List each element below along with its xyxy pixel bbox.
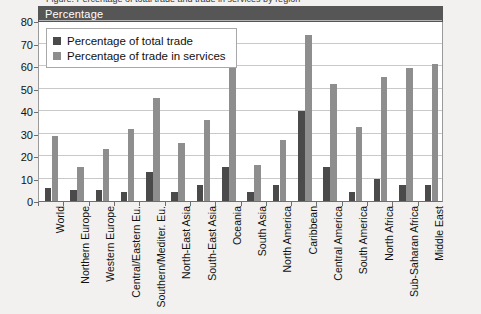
- x-axis-tick-label: Middle East: [434, 206, 444, 261]
- bar: [432, 64, 439, 201]
- bar-group: [393, 22, 418, 201]
- y-axis-tick-label: 80: [21, 17, 33, 28]
- x-axis-tick: [316, 202, 317, 206]
- x-axis-tick-label: Sub-Saharan Africa: [409, 206, 419, 297]
- bar: [121, 192, 128, 201]
- x-axis-tick-label: Northern Europe: [80, 206, 90, 284]
- legend-swatch-services-icon: [53, 52, 61, 60]
- legend-item: Percentage of total trade: [53, 33, 226, 48]
- bar-group: [267, 22, 292, 201]
- x-axis-tick: [38, 202, 39, 206]
- bar: [171, 192, 178, 201]
- x-axis-labels: WorldNorthern EuropeWestern EuropeCentra…: [38, 206, 443, 314]
- bar: [406, 68, 413, 201]
- bar: [273, 185, 280, 201]
- x-axis-tick-label: North-East Asia: [181, 206, 191, 279]
- bar: [356, 127, 363, 201]
- x-axis-tick: [342, 202, 343, 206]
- x-axis-tick-label: South Asia: [257, 206, 267, 256]
- x-axis-tick-label: Western Europe: [105, 206, 115, 282]
- bar: [146, 172, 153, 201]
- x-axis-tick-label: World: [55, 206, 65, 233]
- y-axis-tick-label: 20: [21, 152, 33, 163]
- bar: [323, 167, 330, 201]
- bar-group: [292, 22, 317, 201]
- x-axis-tick: [241, 202, 242, 206]
- y-axis-tick-label: 70: [21, 39, 33, 50]
- bar: [197, 185, 204, 201]
- x-axis-tick: [165, 202, 166, 206]
- x-axis-tick: [89, 202, 90, 206]
- bar: [349, 192, 356, 201]
- bar: [77, 167, 84, 201]
- chart-legend: Percentage of total trade Percentage of …: [46, 28, 237, 68]
- bar: [96, 190, 103, 201]
- bar: [254, 165, 261, 201]
- x-axis-tick: [266, 202, 267, 206]
- bar: [399, 185, 406, 201]
- bar-group: [368, 22, 393, 201]
- x-axis-tick: [114, 202, 115, 206]
- x-axis-tick-label: North Africa: [384, 206, 394, 261]
- bar: [128, 129, 135, 201]
- x-axis-tick: [418, 202, 419, 206]
- bar: [374, 179, 381, 202]
- gridline: [39, 20, 442, 21]
- x-axis-tick-label: Oceania: [232, 206, 242, 245]
- x-axis-tick: [392, 202, 393, 206]
- y-axis: 01020304050607080: [0, 22, 38, 202]
- bar: [70, 190, 77, 201]
- bar: [153, 98, 160, 202]
- bar: [305, 35, 312, 202]
- legend-label: Percentage of total trade: [67, 35, 193, 47]
- x-axis-tick-label: Southern/Mediter. Eu.: [156, 206, 166, 308]
- x-axis-tick-label: Central/Eastern Eu.: [131, 206, 141, 298]
- y-axis-tick-label: 40: [21, 107, 33, 118]
- x-axis-tick: [139, 202, 140, 206]
- bar-group: [317, 22, 342, 201]
- bar: [178, 143, 185, 202]
- legend-swatch-total-trade-icon: [53, 37, 61, 45]
- x-axis-tick: [63, 202, 64, 206]
- bar: [52, 136, 59, 201]
- x-axis-tick: [215, 202, 216, 206]
- bar: [330, 84, 337, 201]
- y-axis-tick-label: 60: [21, 62, 33, 73]
- bar: [45, 188, 52, 202]
- legend-label: Percentage of trade in services: [67, 50, 226, 62]
- y-axis-tick-label: 30: [21, 129, 33, 140]
- x-axis-tick-label: Central America: [333, 206, 343, 281]
- x-axis-tick: [190, 202, 191, 206]
- bar: [222, 167, 229, 201]
- y-axis-tick-label: 0: [27, 197, 33, 208]
- bar: [298, 111, 305, 201]
- figure-title-cropped: Figure. Percentage of total trade and tr…: [0, 0, 481, 5]
- bar: [381, 77, 388, 201]
- chart-header-label: Percentage: [45, 8, 103, 20]
- x-axis-tick-label: South-East Asia: [207, 206, 217, 281]
- x-axis-tick: [367, 202, 368, 206]
- bar-group: [419, 22, 444, 201]
- y-axis-tick-label: 10: [21, 174, 33, 185]
- x-axis-tick-label: North America: [282, 206, 292, 273]
- bar: [280, 140, 287, 201]
- bar-group: [242, 22, 267, 201]
- bar: [425, 185, 432, 201]
- bar: [204, 120, 211, 201]
- bar-group: [343, 22, 368, 201]
- x-axis-tick-label: South America: [358, 206, 368, 274]
- legend-item: Percentage of trade in services: [53, 48, 226, 63]
- y-axis-tick-label: 50: [21, 84, 33, 95]
- x-axis-tick-label: Caribbean: [308, 206, 318, 254]
- x-axis-tick: [291, 202, 292, 206]
- bar: [103, 149, 110, 201]
- chart-figure: Figure. Percentage of total trade and tr…: [0, 0, 481, 314]
- bar: [247, 192, 254, 201]
